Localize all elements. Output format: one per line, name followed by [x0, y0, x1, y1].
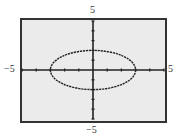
- calculator-screen: [0, 0, 178, 139]
